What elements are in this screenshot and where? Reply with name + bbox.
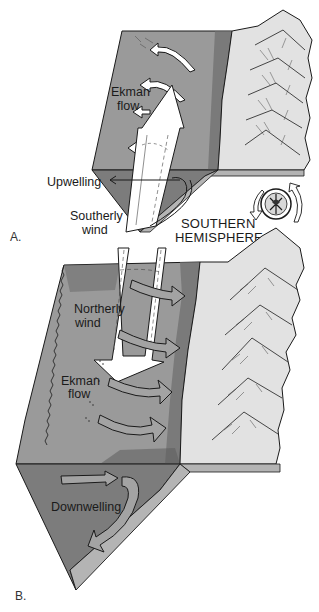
panel-b-wind-label-1: Northerly [74, 302, 125, 316]
hemisphere-label-1: SOUTHERN [181, 216, 256, 231]
panel-a-wind-label-2: wind [81, 223, 108, 237]
panel-b: Northerly wind Ekman flow Downwelling B. [15, 228, 304, 603]
panel-a-ekman-label-2: flow [117, 99, 140, 113]
panel-a-upwelling-label: Upwelling [47, 175, 101, 189]
panel-a-ekman-label-1: Ekman [111, 85, 150, 99]
panel-b-shelf [180, 464, 280, 472]
hemisphere-label-2: HEMISPHERE [175, 230, 263, 245]
panel-b-wind-label-2: wind [74, 316, 101, 330]
panel-b-ekman-label-2: flow [68, 387, 91, 401]
panel-b-cross-section [16, 464, 180, 590]
panel-b-downwelling-label: Downwelling [51, 500, 121, 514]
globe-rotation-icon [250, 183, 302, 222]
panel-b-ekman-label-1: Ekman [61, 374, 100, 388]
panel-a-label: A. [10, 230, 21, 244]
panel-a-land [218, 10, 312, 170]
panel-b-label: B. [15, 589, 26, 603]
panel-a-shelf [205, 170, 304, 176]
ekman-transport-diagram: Ekman flow Upwelling Southerly wind A. S… [0, 0, 319, 612]
panel-a-wind-label-1: Southerly [70, 209, 124, 223]
